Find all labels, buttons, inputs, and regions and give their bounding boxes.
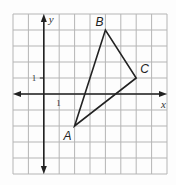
- vertex-label-a: A: [63, 129, 72, 143]
- x-axis-arrow-left-icon: [13, 91, 21, 97]
- x-tick-label: 1: [56, 98, 61, 108]
- coordinate-plane: x y 1 1 A B C: [0, 0, 176, 185]
- y-tick-label: 1: [32, 73, 37, 83]
- vertex-label-b: B: [95, 15, 103, 29]
- vertex-label-c: C: [140, 62, 149, 76]
- coordinate-plane-figure: x y 1 1 A B C: [0, 0, 176, 185]
- y-axis-label: y: [48, 13, 54, 25]
- y-axis-arrow-up-icon: [41, 14, 47, 22]
- y-axis-arrow-down-icon: [41, 166, 47, 174]
- x-axis-arrow-right-icon: [159, 91, 167, 97]
- x-axis-label: x: [160, 98, 166, 110]
